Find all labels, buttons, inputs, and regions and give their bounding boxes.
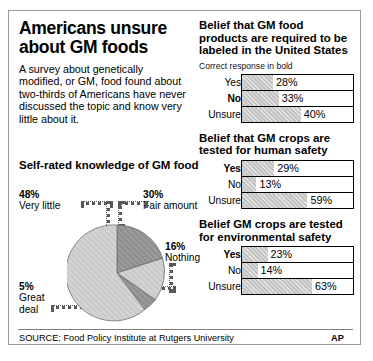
- row-label-no: No: [199, 90, 242, 106]
- source-line: SOURCE: Food Policy Institute at Rutgers…: [19, 333, 234, 343]
- bar-chart-environmental-safety: Belief GM crops are tested for environme…: [199, 218, 354, 295]
- pie-label-very-little: 48% Very little: [19, 189, 60, 212]
- row-label-unsure: Unsure: [199, 192, 242, 208]
- row-label-unsure: Unsure: [199, 279, 242, 295]
- bar-fill-no: [242, 177, 256, 192]
- row-label-unsure: Unsure: [199, 106, 242, 122]
- table-row: No 33%: [199, 90, 354, 106]
- pie-name-great-deal: Great deal: [19, 292, 44, 314]
- bar-chart-labeling: Belief that GM food products are require…: [199, 19, 354, 123]
- ap-credit: AP: [331, 333, 344, 343]
- block-spacer-1: [199, 123, 354, 132]
- bar-track-unsure: 63%: [242, 279, 354, 295]
- row-label-no: No: [199, 263, 242, 279]
- bar-chart-labeling-table: Yes 28% No 33% Unsure: [199, 74, 354, 123]
- bar-fill-unsure: [242, 193, 307, 208]
- row-label-yes: Yes: [199, 247, 242, 263]
- table-row: Unsure 63%: [199, 279, 354, 295]
- right-column: Belief that GM food products are require…: [199, 19, 354, 295]
- bar-value-unsure: 59%: [307, 193, 332, 208]
- table-row: Yes 29%: [199, 160, 354, 176]
- bar-value-yes: 29%: [274, 161, 299, 176]
- row-label-no: No: [199, 176, 242, 192]
- row-label-yes: Yes: [199, 160, 242, 176]
- correct-response-note: Correct response in bold: [199, 61, 354, 71]
- bar-chart-human-safety-title: Belief that GM crops are tested for huma…: [199, 132, 354, 157]
- bar-value-no: 33%: [279, 91, 304, 106]
- bar-fill-no: [242, 91, 279, 106]
- pie-value-fair-amount: 30%: [143, 189, 163, 200]
- bar-value-unsure: 40%: [301, 107, 326, 122]
- bar-value-no: 13%: [256, 177, 281, 192]
- leader-line-fair-amount: [118, 201, 148, 205]
- bar-track-yes: 28%: [242, 74, 354, 90]
- bar-chart-environmental-safety-table: Yes 23% No 14% Unsure: [199, 246, 354, 295]
- bar-chart-labeling-title: Belief that GM food products are require…: [199, 19, 354, 57]
- pie-value-nothing: 16%: [165, 241, 185, 252]
- bar-track-no: 13%: [242, 176, 354, 192]
- left-column: Americans unsure about GM foods A survey…: [19, 19, 189, 125]
- table-row: Yes 28%: [199, 74, 354, 90]
- bar-value-yes: 28%: [273, 75, 298, 90]
- table-row: Unsure 40%: [199, 106, 354, 122]
- pie-label-great-deal: 5% Great deal: [19, 281, 63, 315]
- bar-fill-yes: [242, 161, 274, 176]
- page-title: Americans unsure about GM foods: [19, 19, 189, 57]
- pie-name-nothing: Nothing: [165, 252, 200, 263]
- bar-track-unsure: 59%: [242, 192, 354, 208]
- block-spacer-2: [199, 209, 354, 218]
- bar-track-no: 33%: [242, 90, 354, 106]
- bar-fill-no: [242, 263, 258, 278]
- table-row: Yes 23%: [199, 247, 354, 263]
- bar-track-yes: 29%: [242, 160, 354, 176]
- bar-fill-yes: [242, 75, 273, 90]
- pie-name-very-little: Very little: [19, 200, 60, 211]
- bar-value-unsure: 63%: [312, 279, 337, 294]
- pie-label-fair-amount: 30% Fair amount: [143, 189, 199, 212]
- pie-chart-section: Self-rated knowledge of GM food 48% Very…: [19, 159, 199, 329]
- footer-divider: [18, 329, 353, 330]
- bar-value-yes: 23%: [268, 247, 293, 262]
- bar-track-unsure: 40%: [242, 106, 354, 122]
- pie-value-very-little: 48%: [19, 189, 39, 200]
- bar-chart-human-safety: Belief that GM crops are tested for huma…: [199, 132, 354, 209]
- pie-name-fair-amount: Fair amount: [143, 200, 197, 211]
- bar-fill-yes: [242, 247, 268, 262]
- bar-track-no: 14%: [242, 263, 354, 279]
- table-row: No 14%: [199, 263, 354, 279]
- pie-chart-title: Self-rated knowledge of GM food: [19, 159, 199, 172]
- bar-fill-unsure: [242, 279, 312, 294]
- pie-value-great-deal: 5%: [19, 281, 34, 292]
- table-row: Unsure 59%: [199, 192, 354, 208]
- bar-fill-unsure: [242, 107, 301, 122]
- pie-chart-graphic: [67, 223, 167, 323]
- bar-chart-human-safety-table: Yes 29% No 13% Unsure: [199, 160, 354, 209]
- infographic-frame: Americans unsure about GM foods A survey…: [8, 10, 361, 345]
- bar-track-yes: 23%: [242, 247, 354, 263]
- bar-value-no: 14%: [258, 263, 283, 278]
- intro-paragraph: A survey about genetically modified, or …: [19, 63, 189, 125]
- bar-chart-environmental-safety-title: Belief GM crops are tested for environme…: [199, 218, 354, 243]
- row-label-yes: Yes: [199, 74, 242, 90]
- table-row: No 13%: [199, 176, 354, 192]
